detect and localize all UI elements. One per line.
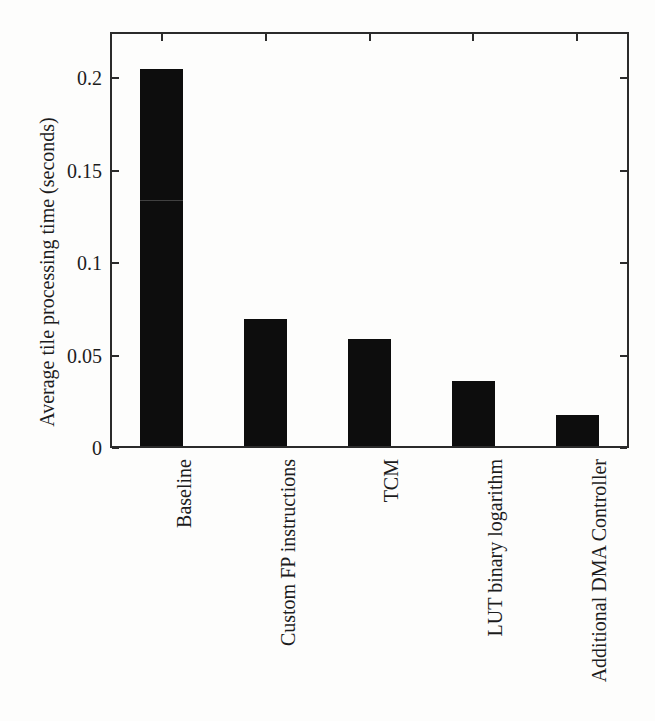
scan-artifact-line: [140, 200, 183, 201]
bar-lut-binary-logarithm: [452, 381, 495, 448]
y-tick-mark: [112, 355, 119, 357]
bar-chart-figure: Average tile processing time (seconds) 0…: [0, 0, 655, 721]
y-tick-mark-mirror: [620, 170, 627, 172]
bar-tcm: [348, 339, 391, 448]
y-tick-label: 0.05: [28, 345, 102, 367]
x-axis-label: Custom FP instructions: [277, 459, 299, 646]
y-tick-label: 0: [28, 437, 102, 459]
x-tick-mark-mirror: [576, 34, 578, 41]
y-tick-mark: [112, 262, 119, 264]
x-tick-mark-mirror: [161, 34, 163, 41]
y-tick-mark-mirror: [620, 355, 627, 357]
x-axis-label: Baseline: [173, 459, 195, 528]
x-axis-label: Additional DMA Controller: [588, 459, 610, 682]
x-axis-label: LUT binary logarithm: [484, 459, 506, 636]
y-tick-label: 0.2: [28, 67, 102, 89]
y-tick-mark-mirror: [620, 262, 627, 264]
y-tick-mark-mirror: [620, 447, 627, 449]
x-tick-mark-mirror: [472, 34, 474, 41]
x-tick-mark-mirror: [369, 34, 371, 41]
x-axis-label: TCM: [381, 459, 403, 502]
y-tick-mark: [112, 170, 119, 172]
bar-custom-fp-instructions: [244, 319, 287, 448]
y-tick-label: 0.15: [28, 160, 102, 182]
x-tick-mark-mirror: [265, 34, 267, 41]
y-tick-mark: [112, 447, 119, 449]
y-tick-mark: [112, 77, 119, 79]
y-tick-mark-mirror: [620, 77, 627, 79]
plot-area: [110, 32, 629, 448]
bar-baseline: [140, 69, 183, 448]
y-tick-label: 0.1: [28, 252, 102, 274]
bar-additional-dma-controller: [556, 415, 599, 448]
